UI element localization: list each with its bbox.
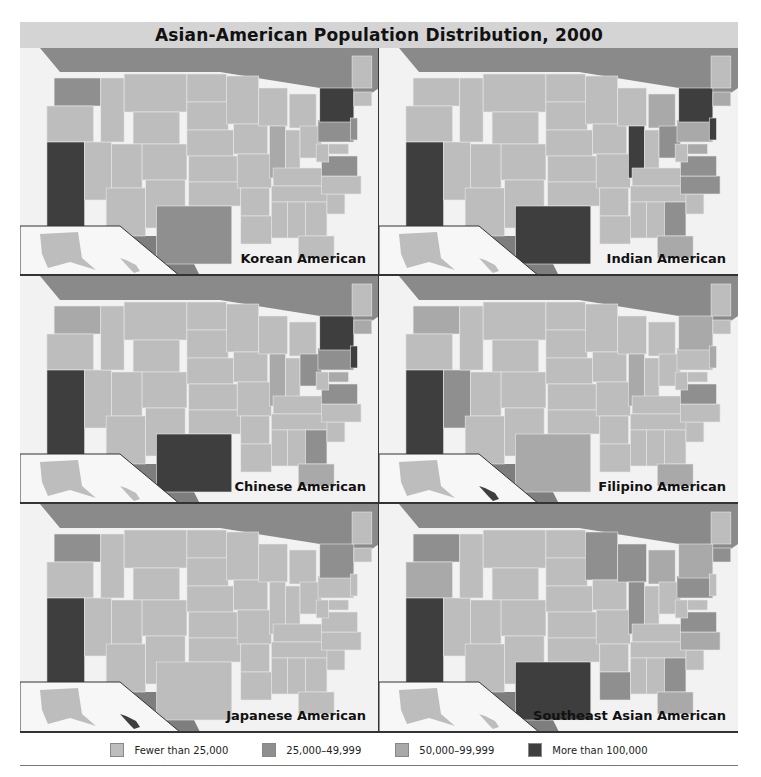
panel-label: Filipino American [598,479,726,494]
state-md [688,600,708,610]
legend-item-2: 25,000–49,999 [262,743,361,757]
state-mn [585,76,617,124]
state-ia [593,580,627,610]
state-ky [632,624,682,642]
state-pa [318,576,354,598]
state-pa [677,576,713,598]
state-ms [630,202,646,238]
state-sc [686,422,704,442]
state-nd [187,302,226,330]
state-tx [156,662,231,720]
us-map [379,276,738,504]
state-ny [320,88,354,122]
map-panel-korean: Korean American [20,48,379,276]
legend-label: More than 100,000 [552,745,647,756]
state-in [645,130,659,170]
state-al [287,430,305,466]
state-ar [600,188,629,216]
state-ks [189,156,237,182]
panel-label: Indian American [607,251,726,266]
state-wv [675,144,688,162]
state-sc [686,194,704,214]
state-co [142,600,187,636]
state-nc [322,632,361,650]
map-panel-indian: Indian American [379,48,738,276]
legend-swatch [528,743,542,757]
state-me [711,284,731,316]
state-mo [596,382,630,416]
state-me [352,512,372,544]
state-sd [546,102,587,130]
state-ga [664,658,686,692]
state-id [101,306,124,370]
state-in [645,586,659,626]
state-la [600,672,631,700]
state-wa [413,78,460,106]
state-wy [133,112,180,144]
state-me [352,284,372,316]
state-ma [354,548,372,562]
state-nc [322,404,361,422]
state-me [711,512,731,544]
legend-item-3: 50,000–99,999 [395,743,494,757]
state-nj [350,346,357,368]
state-ny [320,316,354,350]
us-map [20,276,379,504]
panel-label: Korean American [240,251,366,266]
state-wi [259,544,288,582]
state-ar [600,416,629,444]
state-nd [546,302,585,330]
state-wa [413,306,460,334]
state-wy [492,112,539,144]
state-ut [112,600,143,644]
state-sd [187,102,228,130]
map-panel-filipino: Filipino American [379,276,738,504]
state-ms [271,202,287,238]
state-ok [189,410,241,434]
legend-swatch [110,743,124,757]
state-me [352,56,372,88]
state-ms [630,430,646,466]
state-mt [483,302,546,340]
state-la [600,216,631,244]
state-ks [548,384,596,410]
state-wy [492,568,539,600]
state-wi [259,88,288,126]
state-md [329,144,349,154]
state-ks [548,612,596,638]
state-nj [709,346,716,368]
state-wa [54,306,101,334]
figure-title: Asian-American Population Distribution, … [155,25,603,45]
us-map [20,504,379,732]
state-tn [630,642,687,658]
legend: Fewer than 25,000 25,000–49,999 50,000–9… [20,735,738,766]
state-mt [124,530,187,568]
state-pa [318,120,354,142]
state-nc [681,404,720,422]
state-ky [632,396,682,414]
state-nd [187,74,226,102]
state-id [101,78,124,142]
state-tx [156,206,231,264]
state-ok [548,410,600,434]
state-wv [675,372,688,390]
state-wv [675,600,688,618]
state-ia [234,352,268,382]
state-ma [713,92,731,106]
state-or [406,334,453,370]
state-ny [679,544,713,578]
state-mi [289,94,316,128]
state-ne [546,130,593,156]
state-wi [259,316,288,354]
state-or [47,562,94,598]
state-co [501,144,546,180]
state-sc [327,650,345,670]
state-tx [515,434,590,492]
state-nj [350,118,357,140]
state-mn [585,532,617,580]
state-sc [327,422,345,442]
state-ky [632,168,682,186]
state-co [142,144,187,180]
state-or [406,562,453,598]
state-me [711,56,731,88]
